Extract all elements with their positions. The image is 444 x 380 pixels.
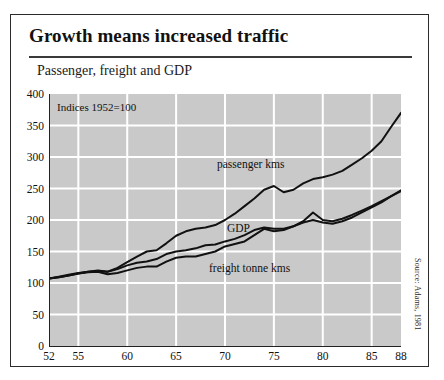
title-divider (29, 56, 412, 58)
plot-region: Indices 1952=100 passenger kms GDP freig… (49, 94, 401, 346)
x-tick-label: 65 (170, 350, 182, 362)
chart-subtitle: Passenger, freight and GDP (37, 63, 192, 79)
y-tick-label: 150 (27, 246, 44, 258)
x-tick-label: 85 (366, 350, 378, 362)
source-note: Source: Adams, 1981 (413, 258, 422, 330)
x-axis-line (49, 346, 401, 347)
x-tick-label: 88 (395, 350, 407, 362)
y-tick-label: 100 (27, 277, 44, 289)
y-tick-label: 400 (27, 88, 44, 100)
y-tick-label: 200 (27, 214, 44, 226)
chart-title: Growth means increased traffic (29, 25, 288, 47)
chart-figure: Growth means increased traffic Passenger… (10, 14, 429, 367)
x-tick-label: 52 (43, 350, 55, 362)
x-tick-label: 70 (219, 350, 231, 362)
y-tick-label: 350 (27, 120, 44, 132)
y-axis-line (49, 94, 50, 346)
series-label-freight: freight tonne kms (209, 262, 290, 274)
series-label-gdp: GDP (227, 222, 250, 234)
y-tick-label: 300 (27, 151, 44, 163)
y-tick-label: 50 (33, 309, 45, 321)
series-label-passenger: passenger kms (217, 158, 284, 170)
indices-annotation: Indices 1952=100 (57, 101, 136, 113)
plot-svg (49, 94, 401, 346)
x-tick-label: 80 (317, 350, 329, 362)
x-tick-label: 60 (121, 350, 133, 362)
x-tick-label: 55 (73, 350, 85, 362)
y-tick-label: 250 (27, 183, 44, 195)
x-tick-label: 75 (268, 350, 280, 362)
